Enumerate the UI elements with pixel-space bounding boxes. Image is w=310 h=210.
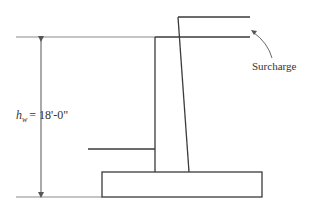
surcharge-label: Surcharge	[252, 60, 297, 72]
height-label: hw= 18'-0"	[16, 108, 68, 124]
stem-back-face	[178, 17, 189, 172]
retaining-wall-diagram: hw= 18'-0" Surcharge	[0, 0, 310, 210]
footing	[102, 172, 262, 197]
surcharge-arrow	[253, 32, 272, 58]
